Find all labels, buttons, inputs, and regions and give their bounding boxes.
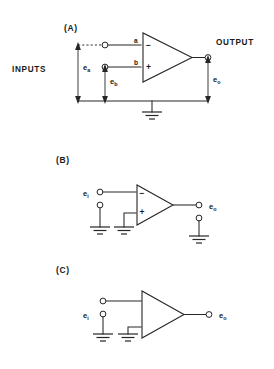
- input-a-terminal[interactable]: [102, 42, 108, 48]
- section-a-group: (A) INPUTS OUTPUT − + a b: [12, 23, 254, 119]
- input-reference-terminal-c[interactable]: [100, 311, 106, 317]
- circuit-canvas: (A) INPUTS OUTPUT − + a b: [0, 0, 274, 369]
- ei-label-c: ei: [83, 311, 89, 321]
- plus-sign-a: +: [146, 62, 151, 72]
- eb-label: eb: [110, 77, 118, 87]
- eb-arrowhead-bottom: [102, 96, 108, 104]
- minus-sign-b: −: [140, 188, 145, 198]
- ea-arrowhead-bottom: [75, 96, 81, 104]
- plus-sign-b: +: [140, 207, 145, 217]
- eo-label-a: eo: [213, 75, 221, 85]
- ea-arrowhead-top: [75, 42, 81, 50]
- output-terminal-c[interactable]: [206, 312, 212, 318]
- pin-b-label: b: [134, 59, 138, 66]
- section-c-group: (C) ei: [56, 265, 227, 341]
- section-a-label: (A): [64, 23, 78, 33]
- input-reference-terminal-b[interactable]: [97, 202, 103, 208]
- section-c-label: (C): [56, 265, 70, 275]
- ground-symbol-c-center: [118, 327, 141, 341]
- eo-label-c: eo: [219, 311, 227, 321]
- output-label: OUTPUT: [216, 38, 254, 47]
- ground-symbol-b-center: [114, 213, 136, 234]
- ei-label-b: ei: [83, 189, 89, 199]
- ground-symbol-c-left: [93, 317, 113, 341]
- input-terminal-b[interactable]: [97, 189, 103, 195]
- eo-arrowhead-bottom-a: [205, 96, 211, 104]
- ground-symbol-b-left: [90, 208, 110, 234]
- minus-sign-a: −: [146, 40, 151, 50]
- circuit-figure: (A) INPUTS OUTPUT − + a b: [0, 0, 274, 369]
- amplifier-symbol-c: [142, 291, 184, 338]
- input-terminal-c[interactable]: [100, 298, 106, 304]
- section-b-group: (B) − + ei: [56, 155, 217, 243]
- eo-label-b: eo: [209, 202, 217, 212]
- pin-a-label: a: [134, 37, 138, 44]
- inputs-label: INPUTS: [12, 65, 46, 74]
- output-terminal-b[interactable]: [196, 202, 202, 208]
- ground-symbol-a: [142, 101, 162, 119]
- section-b-label: (B): [56, 155, 70, 165]
- output-reference-terminal-b[interactable]: [196, 215, 202, 221]
- ground-symbol-b-right: [189, 221, 209, 243]
- ea-label: ea: [83, 63, 91, 73]
